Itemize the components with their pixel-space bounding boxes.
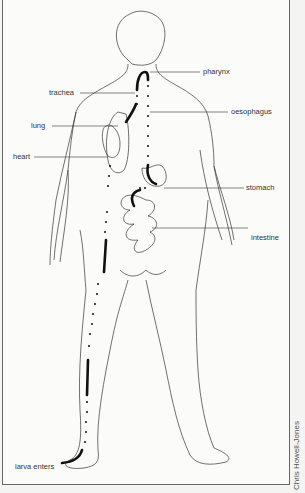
label-oesophagus: oesophagus xyxy=(231,107,272,116)
heart-shape xyxy=(102,125,120,157)
path-foot-entry xyxy=(62,450,82,463)
label-stomach: stomach xyxy=(246,183,274,192)
path-stomach-to-intestine xyxy=(132,190,140,206)
path-shin-arrow xyxy=(87,360,88,395)
label-heart: heart xyxy=(13,152,30,161)
intestine-shape xyxy=(121,195,157,252)
label-intestine: intestine xyxy=(251,233,279,242)
path-oesophagus-to-stomach xyxy=(147,165,156,184)
right-leg-outline xyxy=(146,280,229,464)
path-lung-to-trachea xyxy=(126,104,136,122)
label-lung: lung xyxy=(31,121,45,130)
buttocks-outline xyxy=(120,270,166,276)
path-leg-arrow xyxy=(104,240,106,272)
label-trachea: trachea xyxy=(49,88,74,97)
body-illustration xyxy=(0,0,305,493)
label-larva-enters: larva enters xyxy=(15,462,54,471)
left-leg-outline xyxy=(66,280,128,468)
label-pharynx: pharynx xyxy=(203,67,230,76)
torso-right-outline xyxy=(156,64,234,240)
path-trachea-bend xyxy=(137,72,148,90)
hip-outline xyxy=(80,200,208,290)
head-outline xyxy=(116,11,164,65)
illustrator-credit: Chris Howell-Jones xyxy=(292,421,301,490)
